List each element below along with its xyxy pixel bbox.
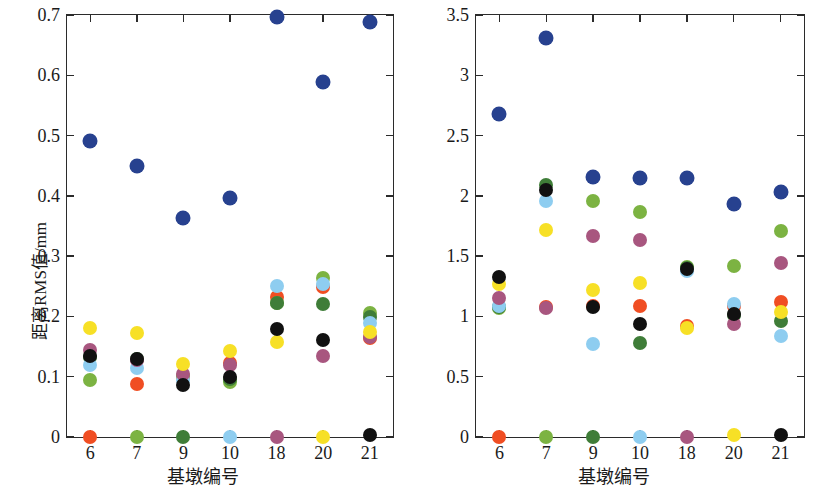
data-point: [680, 430, 694, 444]
data-point: [633, 276, 647, 290]
y-tick-mirror-right: [797, 376, 804, 377]
y-tick-mirror-right: [797, 135, 804, 136]
figure-scatter-pair: 距离RMS值/mm 00.10.20.30.40.50.60.767910182…: [0, 0, 819, 493]
data-point: [176, 430, 190, 444]
panel-distance-rms: 距离RMS值/mm 00.10.20.30.40.50.60.767910182…: [0, 0, 409, 493]
x-tick-mirror-left: [229, 15, 230, 22]
data-point: [539, 183, 553, 197]
y-tick-right: [476, 195, 483, 196]
plot-area-left: 00.10.20.30.40.50.60.767910182021: [67, 15, 393, 437]
data-point: [223, 191, 238, 206]
data-point: [633, 205, 647, 219]
y-tick-label-right: 3: [460, 65, 469, 86]
data-point: [83, 133, 98, 148]
data-point: [130, 352, 144, 366]
y-tick-label-right: 0: [460, 427, 469, 448]
data-point: [774, 256, 788, 270]
x-tick-mirror-right: [639, 15, 640, 22]
data-point: [176, 210, 191, 225]
y-tick-mirror-right: [797, 195, 804, 196]
x-tick-label-left: 9: [179, 443, 188, 464]
data-point: [492, 270, 506, 284]
y-tick-label-right: 0.5: [447, 366, 470, 387]
data-point: [316, 297, 330, 311]
y-tick-label-right: 2: [460, 185, 469, 206]
y-tick-right: [476, 135, 483, 136]
data-point: [586, 430, 600, 444]
data-point: [492, 430, 506, 444]
y-tick-mirror-right: [797, 436, 804, 437]
y-tick-left: [67, 195, 74, 196]
y-tick-label-left: 0: [51, 427, 60, 448]
x-tick-label-right: 21: [772, 443, 790, 464]
y-tick-label-left: 0.5: [38, 125, 61, 146]
y-tick-left: [67, 436, 74, 437]
data-point: [586, 194, 600, 208]
data-point: [129, 159, 144, 174]
x-tick-label-right: 9: [589, 443, 598, 464]
data-point: [223, 344, 237, 358]
data-point: [492, 106, 507, 121]
data-point: [633, 336, 647, 350]
data-point: [680, 321, 694, 335]
data-point: [773, 185, 788, 200]
y-tick-left: [67, 75, 74, 76]
y-tick-mirror-left: [386, 376, 393, 377]
data-point: [83, 373, 97, 387]
x-tick-mirror-left: [322, 15, 323, 22]
y-tick-label-right: 1: [460, 306, 469, 327]
data-point: [679, 170, 694, 185]
data-point: [130, 430, 144, 444]
data-point: [586, 337, 600, 351]
x-tick-label-right: 6: [495, 443, 504, 464]
x-tick-label-left: 18: [268, 443, 286, 464]
data-point: [633, 299, 647, 313]
y-tick-right: [476, 75, 483, 76]
data-point: [774, 305, 788, 319]
y-tick-right: [476, 255, 483, 256]
data-point: [362, 15, 377, 30]
data-point: [633, 170, 648, 185]
data-point: [83, 321, 97, 335]
x-tick-mirror-left: [90, 15, 91, 22]
data-point: [176, 378, 190, 392]
data-point: [586, 300, 600, 314]
y-tick-mirror-right: [797, 14, 804, 15]
y-tick-mirror-left: [386, 316, 393, 317]
data-point: [176, 357, 190, 371]
x-tick-mirror-right: [686, 15, 687, 22]
data-point: [774, 329, 788, 343]
y-tick-label-right: 3.5: [447, 5, 470, 26]
y-tick-right: [476, 436, 483, 437]
y-tick-mirror-left: [386, 14, 393, 15]
data-point: [83, 430, 97, 444]
y-tick-label-left: 0.4: [38, 185, 61, 206]
x-tick-mirror-right: [733, 15, 734, 22]
y-tick-label-left: 0.7: [38, 5, 61, 26]
data-point: [270, 279, 284, 293]
y-tick-label-right: 2.5: [447, 125, 470, 146]
x-tick-label-right: 18: [678, 443, 696, 464]
y-tick-label-left: 0.2: [38, 306, 61, 327]
x-tick-mirror-right: [499, 15, 500, 22]
y-tick-label-left: 0.1: [38, 366, 61, 387]
data-point: [727, 428, 741, 442]
x-axis-title-left: 基墩编号: [38, 462, 368, 488]
data-point: [316, 74, 331, 89]
x-tick-mirror-right: [546, 15, 547, 22]
y-tick-left: [67, 316, 74, 317]
x-axis-title-right: 基墩编号: [449, 462, 779, 488]
data-point: [586, 229, 600, 243]
data-point: [316, 349, 330, 363]
x-tick-label-right: 10: [631, 443, 649, 464]
data-point: [633, 430, 647, 444]
data-point: [316, 430, 330, 444]
data-point: [270, 322, 284, 336]
x-tick-mirror-right: [592, 15, 593, 22]
data-point: [130, 326, 144, 340]
x-tick-label-left: 20: [314, 443, 332, 464]
y-tick-mirror-right: [797, 316, 804, 317]
data-point: [774, 428, 788, 442]
y-tick-left: [67, 376, 74, 377]
y-tick-label-left: 0.3: [38, 246, 61, 267]
